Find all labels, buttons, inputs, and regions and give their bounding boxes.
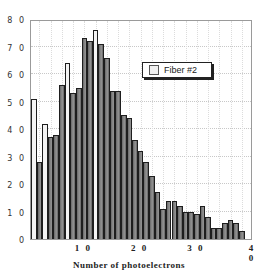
y-tick-label: 7 0 [7, 43, 26, 52]
gridline-vertical [219, 21, 220, 239]
legend-swatch-icon [149, 65, 159, 75]
y-tick-label: 3 0 [7, 153, 26, 162]
plot-area [30, 20, 252, 240]
y-tick-label: 5 0 [7, 98, 26, 107]
legend-label: Fiber #2 [164, 65, 197, 75]
legend: Fiber #2 [142, 62, 212, 78]
y-tick-label: 8 0 [7, 16, 26, 25]
x-tick-label: 1 0 [75, 243, 92, 253]
gridline-vertical [208, 21, 209, 239]
x-axis-label: Number of photoelectrons [0, 260, 258, 270]
gridline-vertical [231, 21, 232, 239]
gridline-vertical [197, 21, 198, 239]
x-tick-label: 2 0 [131, 243, 148, 253]
y-tick-label: 0 [19, 236, 26, 245]
histogram-bar [239, 231, 245, 239]
y-tick-label: 2 0 [7, 181, 26, 190]
y-tick-label: 4 0 [7, 126, 26, 135]
y-tick-label: 1 0 [7, 208, 26, 217]
gridline-vertical [163, 21, 164, 239]
x-tick-label: 3 0 [187, 243, 204, 253]
gridline-vertical [242, 21, 243, 239]
gridline-vertical [186, 21, 187, 239]
y-tick-label: 6 0 [7, 71, 26, 80]
